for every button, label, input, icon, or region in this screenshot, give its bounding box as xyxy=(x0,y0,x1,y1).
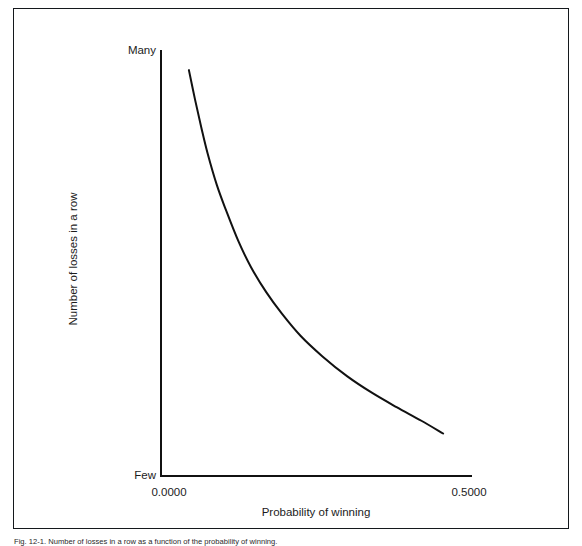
figure-caption: Fig. 12-1. Number of losses in a row as … xyxy=(14,537,570,546)
x-axis-tick-label-right: 0.5000 xyxy=(442,486,496,498)
chart-canvas xyxy=(14,9,570,530)
data-series-line xyxy=(189,70,443,433)
y-axis-tick-label-bottom: Few xyxy=(134,469,156,481)
figure-frame: Many Few 0.0000 0.5000 Probability of wi… xyxy=(13,8,569,529)
plot-area: Many Few 0.0000 0.5000 Probability of wi… xyxy=(14,9,568,528)
x-axis-title: Probability of winning xyxy=(161,506,471,518)
y-axis-tick-label-top: Many xyxy=(128,44,156,56)
y-axis-title: Number of losses in a row xyxy=(67,159,79,359)
x-axis-tick-label-left: 0.0000 xyxy=(142,486,196,498)
